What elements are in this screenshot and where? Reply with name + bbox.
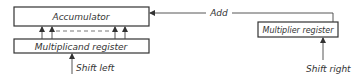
add-label: Add — [209, 8, 228, 18]
shift-left-label: Shift left — [76, 63, 115, 73]
add-control-line: Add — [150, 8, 333, 22]
multiplicand-label: Multiplicand register — [35, 42, 129, 52]
shift-right-input: Shift right — [306, 38, 351, 74]
shift-right-label: Shift right — [306, 64, 351, 74]
shift-left-input: Shift left — [72, 54, 115, 74]
multiplier-box: Multiplier register — [258, 22, 338, 37]
accumulator-box: Accumulator — [14, 7, 149, 26]
transfer-arrows — [42, 27, 125, 39]
multiplicand-box: Multiplicand register — [14, 39, 149, 53]
accumulator-label: Accumulator — [52, 12, 111, 22]
multiplier-label: Multiplier register — [263, 26, 335, 35]
multiplication-diagram: Accumulator Multiplicand register Shift … — [0, 0, 360, 77]
